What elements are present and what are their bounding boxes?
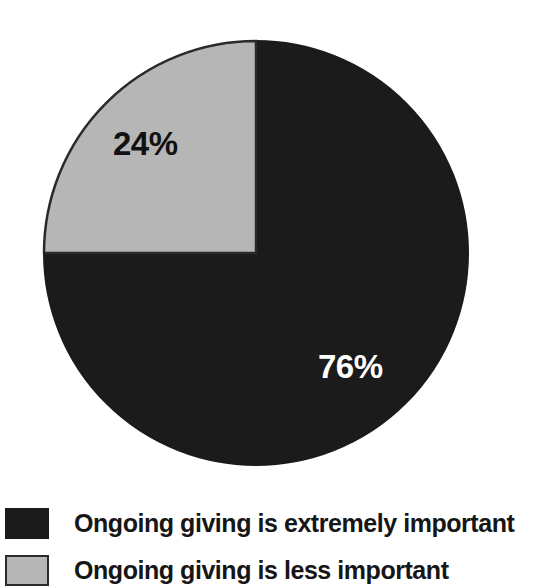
legend-item-extremely-important[interactable]: Ongoing giving is extremely important [0,500,538,547]
pie-data-label-extremely-important: 76% [318,350,383,383]
legend-swatch-dark [5,508,49,539]
legend-label-less-important: Ongoing giving is less important [74,553,449,587]
legend-swatch-gray [5,555,49,586]
pie-chart-graphic [0,0,538,490]
pie-chart: 24% 76% [0,0,538,490]
pie-data-label-less-important: 24% [113,127,178,160]
legend-label-extremely-important: Ongoing giving is extremely important [74,506,514,540]
chart-legend: Ongoing giving is extremely important On… [0,500,538,587]
legend-item-less-important[interactable]: Ongoing giving is less important [0,547,538,587]
